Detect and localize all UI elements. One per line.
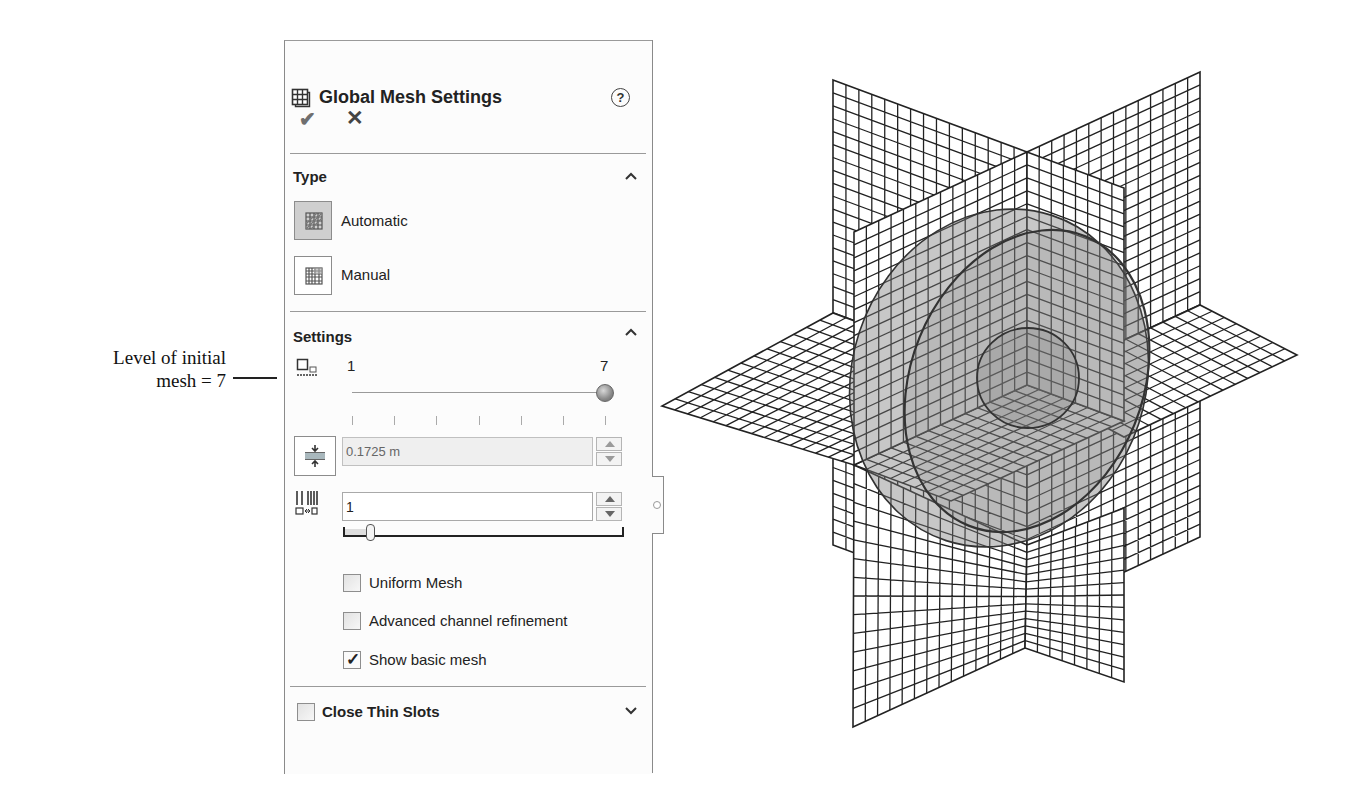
- graphics-viewport[interactable]: [0, 0, 1353, 808]
- basic-mesh-planes: [662, 72, 1297, 727]
